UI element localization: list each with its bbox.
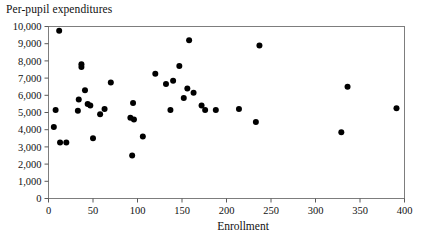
data-point — [176, 63, 182, 69]
x-tick-label: 350 — [352, 205, 368, 216]
data-point — [130, 100, 136, 106]
data-point — [102, 106, 108, 112]
data-points-group — [51, 28, 400, 159]
data-point — [170, 78, 176, 84]
data-point — [90, 135, 96, 141]
y-tick-label: 1,000 — [18, 176, 42, 187]
data-point — [253, 119, 259, 125]
data-point — [181, 95, 187, 101]
y-tick-label: 2,000 — [18, 159, 42, 170]
y-tick-label: 6,000 — [18, 90, 42, 101]
data-point — [213, 107, 219, 113]
data-point — [129, 153, 135, 159]
data-point — [75, 108, 81, 114]
x-axis-group: 050100150200250300350400 — [46, 199, 413, 216]
y-tick-label: 5,000 — [18, 107, 42, 118]
data-point — [345, 84, 351, 90]
data-point — [51, 124, 57, 130]
data-point — [108, 79, 114, 85]
data-point — [97, 111, 103, 117]
data-point — [167, 107, 173, 113]
data-point — [76, 97, 82, 103]
y-tick-label: 0 — [36, 193, 41, 204]
data-point — [53, 107, 59, 113]
data-point — [186, 37, 192, 43]
y-tick-label: 10,000 — [13, 21, 42, 32]
x-axis-label: Enrollment — [217, 219, 269, 233]
y-tick-label: 8,000 — [18, 56, 42, 67]
data-point — [163, 81, 169, 87]
data-point — [56, 28, 62, 34]
x-tick-label: 200 — [219, 205, 235, 216]
data-point — [63, 140, 69, 146]
y-tick-label: 7,000 — [18, 73, 42, 84]
y-tick-label: 3,000 — [18, 142, 42, 153]
x-tick-label: 150 — [174, 205, 190, 216]
data-point — [202, 107, 208, 113]
x-tick-label: 400 — [397, 205, 413, 216]
y-tick-label: 4,000 — [18, 124, 42, 135]
x-tick-label: 100 — [130, 205, 146, 216]
data-point — [236, 106, 242, 112]
data-point — [152, 71, 158, 77]
y-axis-group: 01,0002,0003,0004,0005,0006,0007,0008,00… — [13, 21, 49, 204]
data-point — [184, 85, 190, 91]
data-point — [78, 64, 84, 70]
x-tick-label: 300 — [308, 205, 324, 216]
data-point — [82, 87, 88, 93]
data-point — [87, 103, 93, 109]
plot-canvas: 01,0002,0003,0004,0005,0006,0007,0008,00… — [0, 0, 424, 244]
data-point — [131, 116, 137, 122]
x-axis-label-wrap: Enrollment — [0, 219, 424, 233]
data-point — [256, 42, 262, 48]
data-point — [191, 90, 197, 96]
x-tick-label: 250 — [263, 205, 279, 216]
data-point — [338, 129, 344, 135]
x-tick-label: 0 — [46, 205, 51, 216]
data-point — [140, 134, 146, 140]
x-tick-label: 50 — [88, 205, 99, 216]
data-point — [57, 140, 63, 146]
data-point — [393, 105, 399, 111]
y-tick-label: 9,000 — [18, 38, 42, 49]
scatter-plot-figure: Per-pupil expenditures 01,0002,0003,0004… — [0, 0, 424, 244]
